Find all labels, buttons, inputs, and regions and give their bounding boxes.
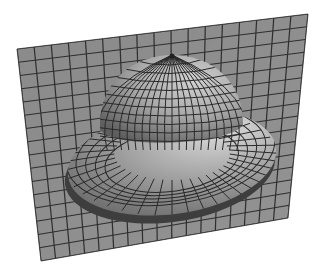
dome-apex bbox=[170, 54, 175, 59]
hat-surface-render bbox=[0, 0, 325, 275]
